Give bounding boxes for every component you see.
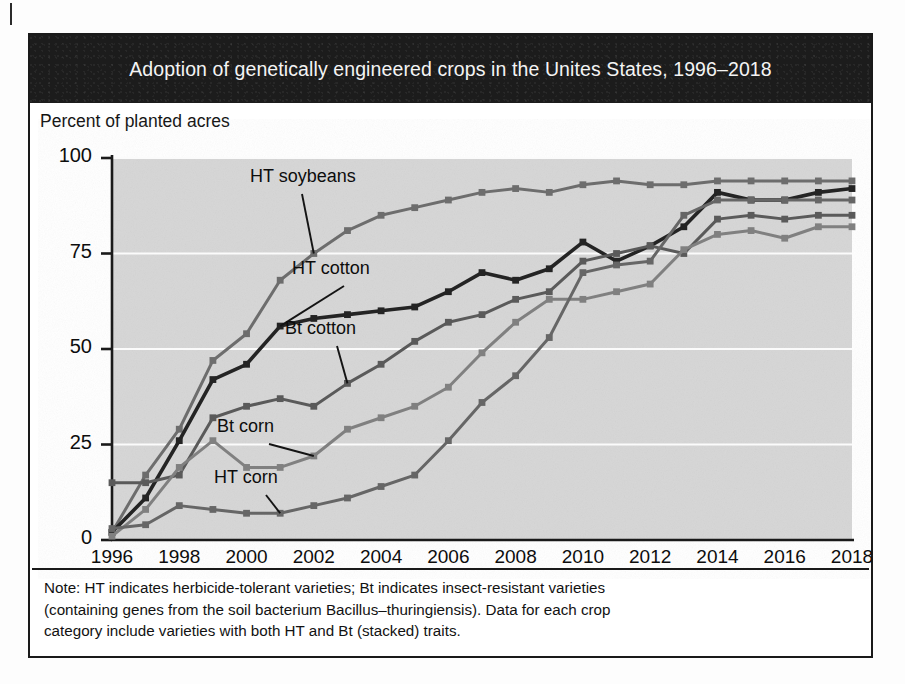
data-point-marker [613,288,620,295]
data-point-marker [479,349,486,356]
data-point-marker [512,319,519,326]
data-point-marker [411,304,418,311]
data-point-marker [479,269,486,276]
data-point-marker [411,204,418,211]
data-point-marker [680,246,687,253]
data-point-marker [142,521,149,528]
data-point-marker [243,403,250,410]
data-point-marker [546,265,553,272]
series-label-ht-soybeans: HT soybeans [250,166,356,187]
series-label-bt-corn: Bt corn [217,416,274,437]
data-point-marker [310,403,317,410]
data-point-marker [849,212,856,219]
data-point-marker [647,258,654,265]
data-point-marker [580,269,587,276]
x-tick-label-2002: 2002 [284,546,344,568]
data-point-marker [479,189,486,196]
data-point-marker [714,231,721,238]
data-point-marker [445,384,452,391]
data-point-marker [714,197,721,204]
data-point-marker [344,495,351,502]
data-point-marker [176,437,183,444]
data-point-marker [310,502,317,509]
data-point-marker [277,464,284,471]
note-line-1: Note: HT indicates herbicide-tolerant va… [44,577,857,599]
plot-area: 0255075100199619982000200220042006200820… [30,35,871,656]
data-point-marker [378,307,385,314]
data-point-marker [445,437,452,444]
data-point-marker [546,334,553,341]
x-tick-label-2006: 2006 [418,546,478,568]
data-point-marker [714,189,721,196]
data-point-marker [680,181,687,188]
data-point-marker [445,288,452,295]
data-point-marker [781,197,788,204]
data-point-marker [479,399,486,406]
data-point-marker [109,525,116,532]
data-point-marker [613,250,620,257]
data-point-marker [546,296,553,303]
data-point-marker [109,533,116,540]
data-point-marker [344,311,351,318]
y-tick-label-25: 25 [40,431,92,454]
x-tick-label-2018: 2018 [822,546,882,568]
data-point-marker [647,281,654,288]
data-point-marker [411,472,418,479]
data-point-marker [277,395,284,402]
data-point-marker [378,212,385,219]
data-point-marker [546,189,553,196]
x-tick-label-2000: 2000 [217,546,277,568]
data-point-marker [748,212,755,219]
data-point-marker [512,277,519,284]
data-point-marker [445,319,452,326]
page-title: Adoption of genetically engineered crops… [129,58,771,81]
data-point-marker [176,502,183,509]
x-tick-label-1996: 1996 [82,546,142,568]
data-point-marker [613,178,620,185]
data-point-marker [142,495,149,502]
data-point-marker [849,197,856,204]
y-tick-label-50: 50 [40,335,92,358]
data-point-marker [849,185,856,192]
data-point-marker [142,479,149,486]
chart-note: Note: HT indicates herbicide-tolerant va… [32,568,869,656]
data-point-marker [378,361,385,368]
data-point-marker [512,185,519,192]
data-point-marker [344,227,351,234]
x-tick-label-2014: 2014 [687,546,747,568]
x-tick-label-2010: 2010 [553,546,613,568]
chart-figure: Adoption of genetically engineered crops… [28,33,873,658]
data-point-marker [512,372,519,379]
data-point-marker [714,178,721,185]
data-point-marker [243,330,250,337]
data-point-marker [815,223,822,230]
data-point-marker [176,426,183,433]
data-point-marker [815,178,822,185]
data-point-marker [344,426,351,433]
note-line-2: (containing genes from the soil bacteriu… [44,599,857,621]
data-point-marker [243,510,250,517]
data-point-marker [714,216,721,223]
data-point-marker [479,311,486,318]
data-point-marker [243,361,250,368]
data-point-marker [815,197,822,204]
data-point-marker [580,296,587,303]
series-label-ht-corn: HT corn [214,467,278,488]
data-point-marker [815,189,822,196]
data-point-marker [781,235,788,242]
data-point-marker [445,197,452,204]
y-tick-label-75: 75 [40,240,92,263]
data-point-marker [277,277,284,284]
data-point-marker [781,216,788,223]
series-label-bt-cotton: Bt cotton [285,318,356,339]
x-tick-label-2008: 2008 [486,546,546,568]
data-point-marker [748,227,755,234]
data-point-marker [512,296,519,303]
data-point-marker [142,506,149,513]
data-point-marker [849,178,856,185]
data-point-marker [815,212,822,219]
data-point-marker [781,178,788,185]
data-point-marker [142,472,149,479]
data-point-marker [647,181,654,188]
x-tick-label-2004: 2004 [351,546,411,568]
